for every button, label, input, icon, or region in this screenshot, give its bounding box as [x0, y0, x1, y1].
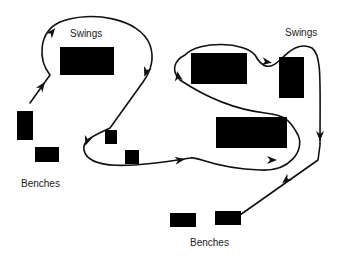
bench-left-1 [17, 111, 33, 140]
block-upper-middle [191, 53, 247, 84]
arrowhead-icon [82, 135, 93, 147]
swing-set-right [279, 57, 304, 98]
swing-set-left [60, 47, 114, 75]
block-small-1 [105, 130, 117, 144]
benches-label-bottom: Benches [190, 238, 229, 248]
swings-label-left: Swings [70, 29, 102, 39]
bench-bottom-1 [170, 213, 196, 227]
block-small-2 [125, 150, 139, 164]
arrowhead-icon [267, 156, 277, 164]
bench-bottom-2 [215, 211, 241, 225]
bench-left-2 [35, 147, 59, 162]
swings-label-right: Swings [285, 28, 317, 38]
arrowhead-icon [280, 174, 293, 187]
playground-diagram: Swings Swings Benches Benches [0, 0, 339, 261]
benches-label-left: Benches [21, 179, 60, 189]
block-lower-middle [216, 117, 287, 148]
